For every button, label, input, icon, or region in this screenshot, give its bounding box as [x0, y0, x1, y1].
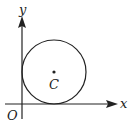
center-point — [52, 70, 55, 73]
coordinate-diagram: y x O C — [0, 0, 131, 125]
x-axis-label: x — [120, 96, 128, 111]
origin-label: O — [7, 108, 18, 123]
center-label: C — [49, 77, 59, 92]
y-axis-label: y — [18, 2, 27, 17]
